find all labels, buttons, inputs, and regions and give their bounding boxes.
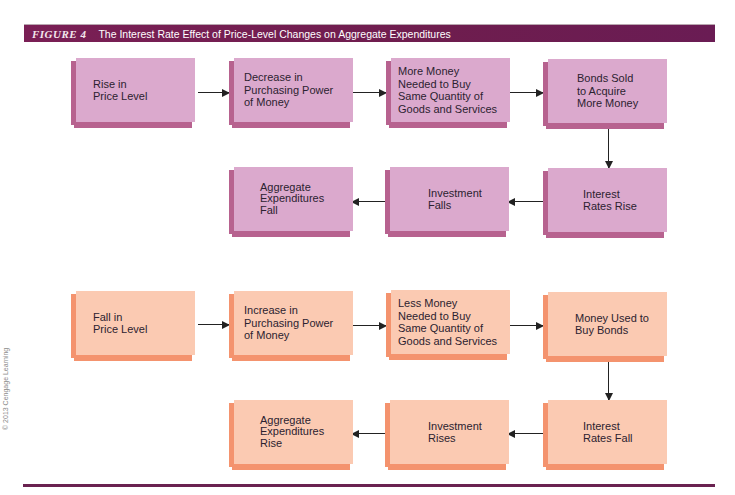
box-label: Fall in Price Level <box>71 311 147 342</box>
box-label: Bonds Sold to Acquire More Money <box>543 72 638 116</box>
box-label: Money Used to Buy Bonds <box>543 312 649 343</box>
box-interest-rates-rise: Interest Rates Rise <box>543 168 667 238</box>
arrow-left-icon <box>508 433 543 434</box>
box-label: Less Money Needed to Buy Same Quantity o… <box>386 297 497 353</box>
arrow-right-icon <box>510 325 543 326</box>
box-more-money-needed: More Money Needed to Buy Same Quantity o… <box>386 58 510 128</box>
arrow-left-icon <box>508 201 543 202</box>
box-investment-rises: Investment Rises <box>385 400 509 470</box>
arrow-down-icon <box>608 362 609 400</box>
box-label: Decrease in Purchasing Power of Money <box>229 71 333 115</box>
box-label: Interest Rates Rise <box>543 188 637 219</box>
box-label: Increase in Purchasing Power of Money <box>229 304 333 348</box>
box-investment-falls: Investment Falls <box>385 167 509 237</box>
arrow-right-icon <box>510 92 543 93</box>
box-increase-purchasing-power: Increase in Purchasing Power of Money <box>229 291 353 361</box>
figure-title: The Interest Rate Effect of Price-Level … <box>98 28 450 40</box>
arrow-right-icon <box>353 325 386 326</box>
arrow-down-icon <box>608 129 609 168</box>
box-label: Interest Rates Fall <box>543 420 633 451</box>
box-fall-in-price-level: Fall in Price Level <box>71 291 195 361</box>
box-label: Investment Falls <box>385 187 482 218</box>
box-less-money-needed: Less Money Needed to Buy Same Quantity o… <box>386 290 510 360</box>
arrow-left-icon <box>352 433 385 434</box>
box-label: Investment Rises <box>385 420 482 451</box>
bottom-rule <box>23 484 715 487</box>
box-label: Rise in Price Level <box>71 78 147 109</box>
box-aggregate-expenditures-fall: Aggregate Expenditures Fall <box>229 167 353 237</box>
box-label: Aggregate Expenditures Fall <box>229 182 324 223</box>
arrow-right-icon <box>198 324 229 325</box>
arrow-right-icon <box>198 92 229 93</box>
arrow-right-icon <box>353 92 386 93</box>
figure-label: FIGURE 4 <box>32 28 86 40</box>
box-decrease-purchasing-power: Decrease in Purchasing Power of Money <box>229 58 353 128</box>
arrow-left-icon <box>352 201 385 202</box>
box-bonds-sold: Bonds Sold to Acquire More Money <box>543 59 667 129</box>
box-money-used-to-buy-bonds: Money Used to Buy Bonds <box>543 292 667 362</box>
copyright-notice: © 2013 Cengage Learning <box>2 348 9 430</box>
box-aggregate-expenditures-rise: Aggregate Expenditures Rise <box>229 400 353 470</box>
box-label: Aggregate Expenditures Rise <box>229 415 324 456</box>
figure-header-bar: FIGURE 4 The Interest Rate Effect of Pri… <box>24 24 715 42</box>
box-label: More Money Needed to Buy Same Quantity o… <box>386 65 497 121</box>
box-interest-rates-fall: Interest Rates Fall <box>543 400 667 470</box>
box-rise-in-price-level: Rise in Price Level <box>71 58 195 128</box>
